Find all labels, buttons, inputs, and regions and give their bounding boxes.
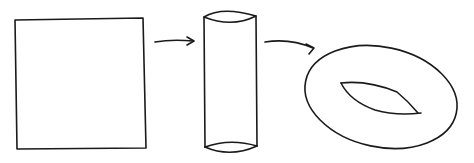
torus-shape bbox=[295, 32, 466, 162]
topology-diagram bbox=[0, 0, 474, 163]
arrow-cylinder-to-torus bbox=[265, 41, 314, 54]
square-shape bbox=[15, 18, 146, 149]
arrow-square-to-cylinder bbox=[155, 37, 194, 45]
diagram-svg bbox=[0, 0, 474, 163]
cylinder-shape bbox=[204, 11, 257, 152]
